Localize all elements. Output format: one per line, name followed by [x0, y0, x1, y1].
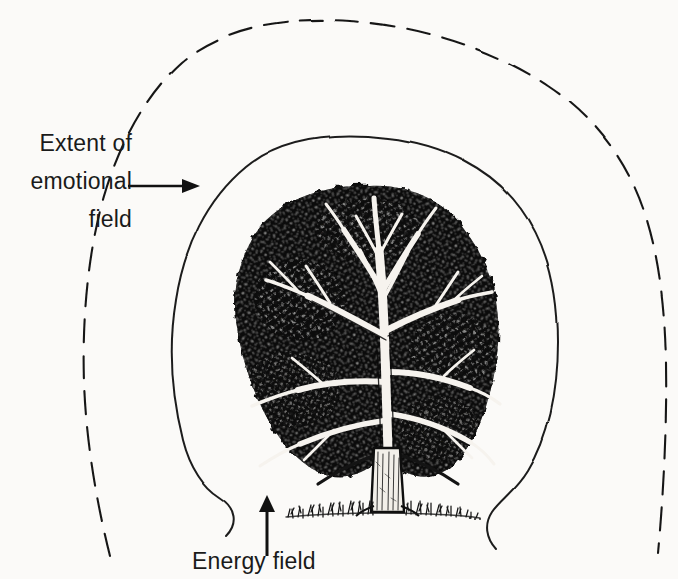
- emotional-field-label-line-1: Extent of: [0, 124, 132, 162]
- extent-of-emotional-field-label: Extent of emotional field: [0, 124, 132, 238]
- energy-field-label: Energy field: [192, 546, 316, 576]
- tree-illustration: [230, 180, 505, 520]
- emotional-field-arrow-icon: [128, 179, 200, 193]
- field-diagram: [0, 0, 678, 579]
- figure-page: Extent of emotional field Energy field: [0, 0, 678, 579]
- emotional-field-label-line-3: field: [0, 200, 132, 238]
- emotional-field-label-line-2: emotional: [0, 162, 132, 200]
